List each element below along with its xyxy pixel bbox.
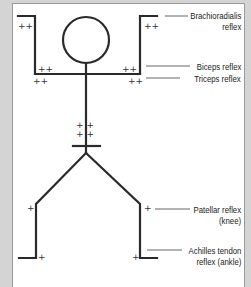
grade-brachioradialis-left: ++ (18, 21, 33, 31)
grade-abdominal-lower: + + (76, 129, 94, 139)
grade-triceps-right: ++ (128, 76, 143, 86)
label-brachioradialis: Brachioradialis reflex (190, 10, 241, 32)
label-patellar: Patellar reflex (knee) (193, 204, 241, 226)
label-triceps: Triceps reflex (195, 73, 241, 84)
label-biceps: Biceps reflex (196, 61, 241, 72)
grade-biceps-right: ++ (122, 64, 137, 74)
grade-achilles-right: + (132, 252, 140, 262)
grade-patellar-right: + (144, 203, 152, 213)
grade-biceps-left: ++ (38, 64, 53, 74)
head-circle (63, 17, 109, 63)
label-achilles: Achilles tendon reflex (ankle) (188, 245, 241, 267)
grade-achilles-left: + (38, 252, 46, 262)
grade-brachioradialis-right: ++ (144, 21, 159, 31)
grade-triceps-left: ++ (33, 76, 48, 86)
grade-patellar-left: + (27, 203, 35, 213)
